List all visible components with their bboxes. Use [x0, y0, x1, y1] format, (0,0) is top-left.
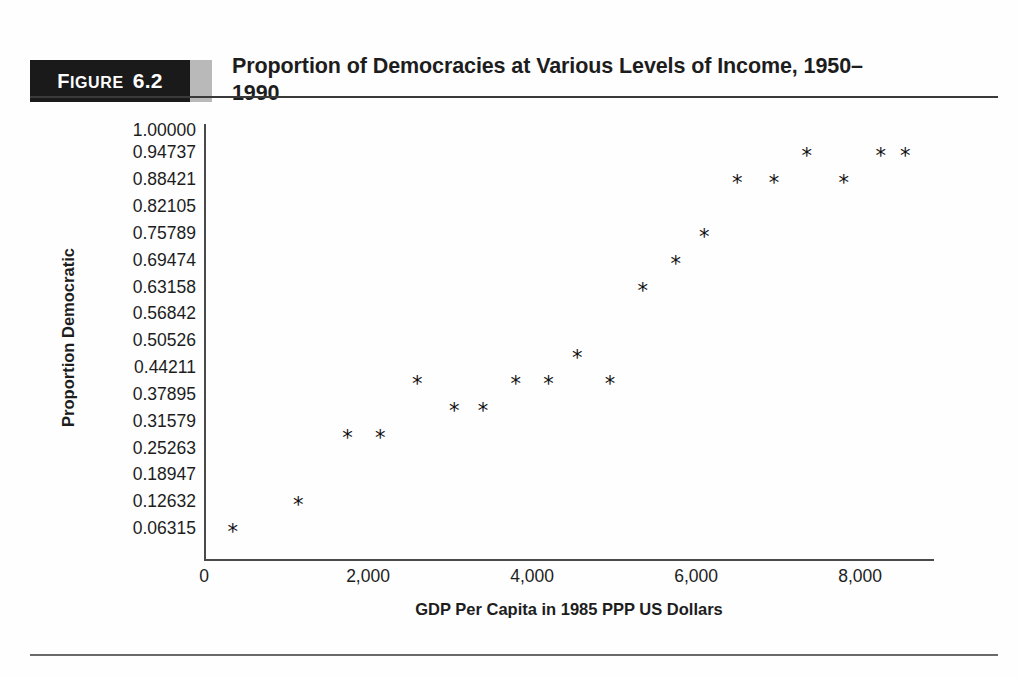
y-axis-tick-label: 0.94737: [96, 143, 196, 161]
figure-badge-label: FIGURE: [57, 70, 124, 93]
y-axis-tick-label: 0.44211: [96, 358, 196, 376]
y-axis-tick-label: 0.25263: [96, 439, 196, 457]
figure-header: FIGURE 6.2 Proportion of Democracies at …: [0, 28, 1019, 98]
x-axis-tick-labels: 02,0004,0006,0008,000: [0, 566, 1019, 596]
data-point-marker: *: [342, 428, 353, 449]
x-axis-tick-label: 4,000: [510, 566, 554, 587]
x-axis-tick-label: 2,000: [346, 566, 390, 587]
data-point-marker: *: [875, 146, 886, 167]
x-axis-tick-label: 6,000: [674, 566, 718, 587]
data-point-marker: *: [375, 428, 386, 449]
y-axis-tick-label: 0.37895: [96, 385, 196, 403]
data-point-marker: *: [293, 495, 304, 516]
data-point-marker: *: [449, 401, 460, 422]
data-point-marker: *: [412, 374, 423, 395]
data-point-marker: *: [802, 146, 813, 167]
y-axis-tick-label: 0.31579: [96, 412, 196, 430]
y-axis-tick-label: 0.88421: [96, 170, 196, 188]
x-axis-tick-label: 0: [199, 566, 209, 587]
data-point-marker: *: [227, 522, 238, 543]
header-divider: [30, 96, 998, 98]
figure-title: Proportion of Democracies at Various Lev…: [232, 53, 872, 107]
y-axis-tick-label: 0.06315: [96, 519, 196, 537]
data-point-marker: *: [670, 253, 681, 274]
data-point-marker: *: [638, 280, 649, 301]
y-axis-tick-labels: 1.000000.947370.884210.821050.757890.694…: [92, 100, 196, 570]
data-point-marker: *: [699, 226, 710, 247]
data-point-marker: *: [900, 146, 911, 167]
footer-divider: [30, 654, 998, 656]
data-point-marker: *: [510, 374, 521, 395]
y-axis-tick-label: 0.69474: [96, 251, 196, 269]
data-point-marker: *: [572, 347, 583, 368]
y-axis-tick-label: 1.00000: [96, 121, 196, 139]
figure-badge-number: 6.2: [133, 69, 163, 93]
y-axis-tick-label: 0.75789: [96, 224, 196, 242]
data-point-marker: *: [605, 374, 616, 395]
y-axis-tick-label: 0.63158: [96, 278, 196, 296]
y-axis-tick-label: 0.82105: [96, 197, 196, 215]
x-axis-title: GDP Per Capita in 1985 PPP US Dollars: [204, 600, 934, 619]
data-point-marker: *: [769, 173, 780, 194]
y-axis-title: Proportion Democratic: [59, 208, 78, 468]
figure-page: FIGURE 6.2 Proportion of Democracies at …: [0, 0, 1019, 676]
y-axis-tick-label: 0.12632: [96, 492, 196, 510]
plot-area: [204, 124, 934, 560]
y-axis-tick-label: 0.50526: [96, 331, 196, 349]
data-point-marker: *: [839, 173, 850, 194]
data-point-marker: *: [543, 374, 554, 395]
chart-container: 1.000000.947370.884210.821050.757890.694…: [0, 100, 1019, 645]
x-axis-tick-label: 8,000: [838, 566, 882, 587]
data-point-marker: *: [732, 173, 743, 194]
y-axis-tick-label: 0.56842: [96, 304, 196, 322]
y-axis-tick-label: 0.18947: [96, 465, 196, 483]
data-point-marker: *: [478, 401, 489, 422]
